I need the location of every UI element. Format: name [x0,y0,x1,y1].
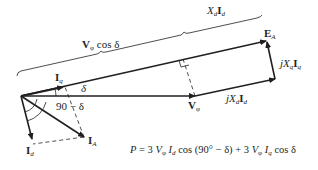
label-xd-id: XdId [207,5,225,18]
eq-text: = 3 [136,144,155,155]
eq-text: cos δ [272,144,296,155]
ninety-minus-delta-arc-outer [27,102,46,121]
x-symbol: X [229,92,236,104]
dashed-ia-to-id [33,137,84,144]
iq-phasor [21,87,63,96]
eq-text: cos (90° − δ) + 3 [176,144,252,155]
jxq-iq-phasor [267,42,275,79]
x-symbol: X [283,57,290,69]
label-id: Id [26,145,34,158]
power-equation: P = 3 Vφ Id cos (90° − δ) + 3 Vφ Iq cos … [130,145,296,157]
d-subscript: d [244,98,248,106]
cos-delta-text: cos δ [94,38,119,50]
q-subscript: q [59,77,63,85]
a-subscript: A [271,33,275,41]
phi-subscript: φ [196,105,200,113]
label-ea: EA [264,28,276,41]
label-vphi-cos-delta: Vφ cos δ [82,39,119,52]
label-ia: IA [88,135,97,148]
label-vphi: Vφ [188,100,200,113]
d-subscript: d [222,10,226,18]
q-subscript: q [298,63,302,71]
a-subscript: A [92,140,96,148]
label-jxd-id: jXdId [226,93,247,106]
label-ninety-minus-delta: 90 − δ [56,101,84,112]
d-subscript: d [30,150,34,158]
label-jxq-iq: jXqIq [280,58,301,71]
delta-arc [55,89,56,96]
dashed-ia-to-iq [65,87,84,137]
brace-line [17,15,262,76]
label-delta: δ [81,83,86,94]
label-iq: Iq [55,72,63,85]
dashed-vphi-perp [183,59,195,96]
v-symbol: V [188,99,196,111]
phasor-diagram: Vφ cos δ XdId EA jXqIq jXdId Vφ Iq δ 90 … [0,0,318,170]
x-symbol: X [207,4,214,16]
v-symbol: V [82,38,90,50]
